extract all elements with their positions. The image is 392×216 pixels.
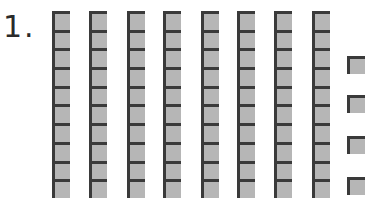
- rod-cell: [163, 179, 181, 198]
- tens-rod: [163, 11, 181, 198]
- tens-rod: [237, 11, 255, 198]
- rod-cell: [52, 86, 70, 105]
- unit-cube: [347, 177, 365, 195]
- rod-cell: [237, 67, 255, 86]
- rod-cell: [52, 11, 70, 30]
- rod-cell: [127, 179, 145, 198]
- tens-rod: [127, 11, 145, 198]
- rod-cell: [237, 48, 255, 67]
- rod-cell: [274, 179, 292, 198]
- rod-cell: [237, 142, 255, 161]
- rod-cell: [52, 123, 70, 142]
- rod-cell: [163, 86, 181, 105]
- rod-cell: [201, 30, 219, 49]
- rod-cell: [163, 67, 181, 86]
- rod-cell: [89, 30, 107, 49]
- rod-cell: [89, 161, 107, 180]
- rod-cell: [89, 179, 107, 198]
- rod-cell: [163, 161, 181, 180]
- rod-cell: [127, 86, 145, 105]
- rod-cell: [312, 123, 330, 142]
- rod-cell: [237, 104, 255, 123]
- rod-cell: [52, 48, 70, 67]
- rod-cell: [237, 179, 255, 198]
- rod-cell: [201, 48, 219, 67]
- tens-rod: [201, 11, 219, 198]
- rod-cell: [274, 161, 292, 180]
- problem-number-label: 1.: [3, 9, 36, 45]
- rod-cell: [274, 142, 292, 161]
- unit-cube: [347, 56, 365, 74]
- rod-cell: [312, 104, 330, 123]
- rod-cell: [127, 104, 145, 123]
- rod-cell: [237, 161, 255, 180]
- rod-cell: [274, 67, 292, 86]
- rod-cell: [237, 86, 255, 105]
- rod-cell: [163, 123, 181, 142]
- rod-cell: [237, 11, 255, 30]
- rod-cell: [52, 104, 70, 123]
- unit-cube: [347, 95, 365, 113]
- tens-rod: [274, 11, 292, 198]
- rod-cell: [52, 161, 70, 180]
- rod-cell: [89, 142, 107, 161]
- rod-cell: [127, 48, 145, 67]
- rod-cell: [274, 48, 292, 67]
- rod-cell: [201, 161, 219, 180]
- rod-cell: [312, 67, 330, 86]
- rod-cell: [89, 48, 107, 67]
- rod-cell: [52, 67, 70, 86]
- rod-cell: [127, 161, 145, 180]
- rod-cell: [127, 67, 145, 86]
- rod-cell: [127, 142, 145, 161]
- unit-cube: [347, 136, 365, 154]
- rod-cell: [127, 30, 145, 49]
- rod-cell: [163, 104, 181, 123]
- rod-cell: [163, 30, 181, 49]
- rod-cell: [127, 11, 145, 30]
- rod-cell: [89, 11, 107, 30]
- rod-cell: [163, 48, 181, 67]
- tens-rod: [312, 11, 330, 198]
- rod-cell: [274, 30, 292, 49]
- tens-rod: [89, 11, 107, 198]
- rod-cell: [312, 142, 330, 161]
- rod-cell: [52, 30, 70, 49]
- rod-cell: [312, 161, 330, 180]
- rod-cell: [201, 104, 219, 123]
- rod-cell: [201, 67, 219, 86]
- rod-cell: [201, 11, 219, 30]
- rod-cell: [89, 123, 107, 142]
- rod-cell: [163, 142, 181, 161]
- tens-rod: [52, 11, 70, 198]
- rod-cell: [89, 67, 107, 86]
- rod-cell: [52, 179, 70, 198]
- rod-cell: [237, 30, 255, 49]
- rod-cell: [52, 142, 70, 161]
- rod-cell: [163, 11, 181, 30]
- rod-cell: [274, 11, 292, 30]
- rod-cell: [312, 30, 330, 49]
- rod-cell: [274, 86, 292, 105]
- rod-cell: [89, 86, 107, 105]
- rod-cell: [312, 86, 330, 105]
- rod-cell: [127, 123, 145, 142]
- rod-cell: [201, 86, 219, 105]
- rod-cell: [201, 123, 219, 142]
- rod-cell: [312, 11, 330, 30]
- rod-cell: [89, 104, 107, 123]
- rod-cell: [312, 179, 330, 198]
- rod-cell: [201, 179, 219, 198]
- base-ten-blocks-worksheet: 1.: [0, 0, 392, 216]
- rod-cell: [274, 104, 292, 123]
- rod-cell: [201, 142, 219, 161]
- rod-cell: [274, 123, 292, 142]
- rod-cell: [237, 123, 255, 142]
- rod-cell: [312, 48, 330, 67]
